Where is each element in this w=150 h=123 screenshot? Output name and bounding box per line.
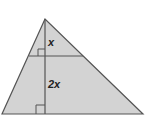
label-x: x: [47, 36, 55, 48]
triangle-diagram: x 2x: [0, 0, 150, 123]
label-2x: 2x: [47, 78, 61, 90]
triangle: [2, 19, 143, 114]
